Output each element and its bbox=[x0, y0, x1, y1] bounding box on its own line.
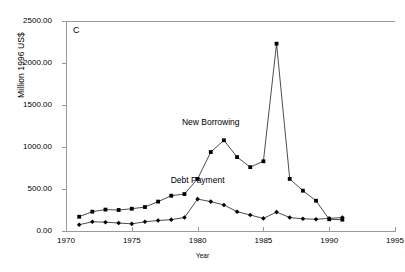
series-line bbox=[79, 44, 342, 220]
data-point-marker bbox=[182, 215, 187, 220]
data-point-marker bbox=[169, 217, 174, 222]
data-point-marker bbox=[156, 200, 160, 204]
y-axis-tick-label: 500.00 bbox=[6, 185, 52, 193]
data-point-marker bbox=[274, 210, 279, 215]
y-axis-tick-label: 2000.00 bbox=[6, 59, 52, 67]
data-point-marker bbox=[314, 199, 318, 203]
x-axis-tick-label: 1985 bbox=[243, 237, 283, 245]
x-axis-title: Year bbox=[0, 252, 405, 259]
data-point-marker bbox=[301, 217, 306, 222]
x-axis-tick-mark bbox=[329, 227, 330, 232]
data-point-marker bbox=[222, 203, 227, 208]
data-point-marker bbox=[104, 208, 108, 212]
x-axis-tick-mark bbox=[66, 227, 67, 232]
y-axis-tick-mark bbox=[62, 147, 67, 148]
data-point-marker bbox=[301, 189, 305, 193]
x-axis-tick-mark bbox=[132, 227, 133, 232]
data-point-marker bbox=[235, 155, 239, 159]
data-point-marker bbox=[262, 159, 266, 163]
y-axis-tick-label: 1000.00 bbox=[6, 143, 52, 151]
plot-area: C New BorrowingDebt Payment bbox=[66, 21, 395, 232]
data-point-marker bbox=[248, 213, 253, 218]
y-axis-tick-label: 0.00 bbox=[6, 227, 52, 235]
data-point-marker bbox=[103, 220, 108, 225]
data-point-marker bbox=[275, 42, 279, 46]
data-point-marker bbox=[130, 222, 135, 227]
y-axis-tick-label: 2500.00 bbox=[6, 17, 52, 25]
data-point-marker bbox=[117, 208, 121, 212]
data-point-marker bbox=[195, 197, 200, 202]
chart-container: Million 1996 US$ 0.00500.001000.001500.0… bbox=[0, 0, 405, 272]
data-point-marker bbox=[77, 215, 81, 219]
x-axis-tick-label: 1980 bbox=[178, 237, 218, 245]
data-point-marker bbox=[130, 207, 134, 211]
series-new-borrowing bbox=[77, 42, 344, 222]
y-axis-tick-mark bbox=[62, 105, 67, 106]
x-axis-tick-mark bbox=[395, 227, 396, 232]
data-point-marker bbox=[288, 177, 292, 181]
x-axis-tick-label: 1990 bbox=[309, 237, 349, 245]
y-axis-tick-labels: 0.00500.001000.001500.002000.002500.00 bbox=[0, 0, 52, 272]
data-point-marker bbox=[116, 221, 121, 226]
x-axis-tick-label: 1995 bbox=[375, 237, 405, 245]
x-axis-tick-mark bbox=[198, 227, 199, 232]
data-point-marker bbox=[183, 192, 187, 196]
data-point-marker bbox=[90, 219, 95, 224]
series-label-new-borrowing: New Borrowing bbox=[182, 117, 240, 127]
data-point-marker bbox=[222, 138, 226, 142]
x-axis-tick-label: 1975 bbox=[112, 237, 152, 245]
data-point-marker bbox=[90, 210, 94, 214]
data-point-marker bbox=[208, 199, 213, 204]
data-point-marker bbox=[235, 209, 240, 214]
data-point-marker bbox=[209, 150, 213, 154]
y-axis-tick-mark bbox=[62, 189, 67, 190]
x-axis-tick-mark bbox=[263, 227, 264, 232]
y-axis-tick-label: 1500.00 bbox=[6, 101, 52, 109]
data-point-marker bbox=[248, 165, 252, 169]
series-label-debt-payment: Debt Payment bbox=[171, 175, 225, 185]
data-point-marker bbox=[314, 217, 319, 222]
data-point-marker bbox=[169, 194, 173, 198]
data-point-marker bbox=[156, 218, 161, 223]
data-point-marker bbox=[287, 215, 292, 220]
y-axis-tick-mark bbox=[62, 21, 67, 22]
y-axis-tick-mark bbox=[62, 63, 67, 64]
data-point-marker bbox=[143, 205, 147, 209]
x-axis-tick-label: 1970 bbox=[46, 237, 86, 245]
data-point-marker bbox=[77, 222, 82, 227]
data-point-marker bbox=[261, 216, 266, 221]
data-point-marker bbox=[143, 219, 148, 224]
